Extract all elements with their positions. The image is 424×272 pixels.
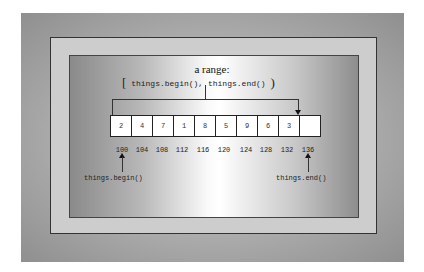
range-expression-text: things.begin(), things.end() <box>131 79 265 88</box>
address-label: 116 <box>192 146 214 154</box>
address-label: 112 <box>171 146 193 154</box>
range-title: a range: <box>0 63 424 75</box>
end-arrow-shaft <box>308 157 309 172</box>
address-label: 104 <box>131 146 153 154</box>
array-cell: 9 <box>236 115 258 137</box>
range-expression: [ things.begin(), things.end() ) <box>122 75 275 91</box>
array-cell: 7 <box>152 115 174 137</box>
close-bracket: ) <box>270 75 274 90</box>
array-cells: 2 4 7 1 8 5 9 6 3 <box>111 115 321 137</box>
address-label: 120 <box>213 146 235 154</box>
address-label: 132 <box>276 146 298 154</box>
array-cell-end <box>299 115 321 137</box>
begin-arrow-shaft <box>122 157 123 172</box>
connector-bar <box>112 99 299 100</box>
address-label: 108 <box>151 146 173 154</box>
address-label: 128 <box>255 146 277 154</box>
array-cell: 5 <box>215 115 237 137</box>
array-cell: 8 <box>194 115 216 137</box>
connector-left-leg <box>112 99 113 115</box>
end-label: things.end() <box>276 174 326 182</box>
array-cell: 4 <box>131 115 153 137</box>
connector-right-leg <box>298 99 299 110</box>
begin-label: things.begin() <box>84 174 143 182</box>
array-cell: 6 <box>257 115 279 137</box>
array-cell: 3 <box>278 115 300 137</box>
array-cell: 2 <box>110 115 132 137</box>
open-bracket: [ <box>122 75 126 90</box>
array-cell: 1 <box>173 115 195 137</box>
connector-stem <box>205 85 206 100</box>
address-label: 124 <box>235 146 257 154</box>
